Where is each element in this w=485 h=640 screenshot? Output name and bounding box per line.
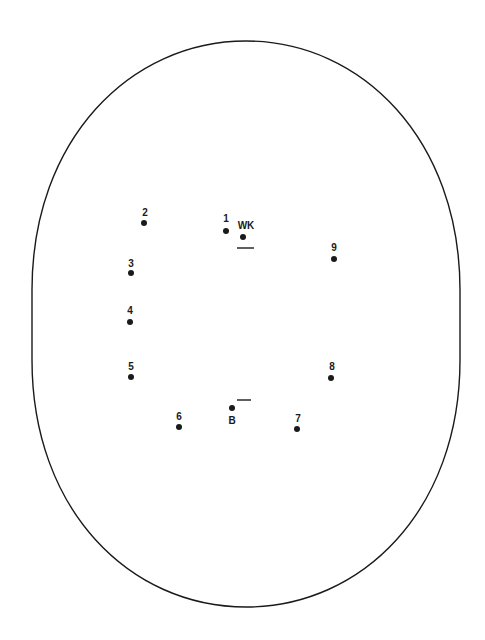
- fielding-positions: 1WK23456B789: [127, 207, 337, 432]
- fielder-wk: WK: [238, 220, 255, 240]
- position-label: 3: [128, 258, 134, 269]
- field-boundary: [32, 41, 460, 607]
- position-dot: [127, 319, 133, 325]
- cricket-field-diagram: 1WK23456B789: [0, 0, 485, 640]
- position-dot: [328, 375, 334, 381]
- fielder-3: 3: [128, 258, 134, 276]
- position-dot: [294, 426, 300, 432]
- position-label: WK: [238, 220, 255, 231]
- position-dot: [223, 228, 229, 234]
- position-label: 9: [331, 242, 337, 253]
- position-label: 4: [127, 305, 133, 316]
- position-label: B: [228, 415, 235, 426]
- fielder-4: 4: [127, 305, 133, 325]
- position-label: 7: [295, 413, 301, 424]
- position-dot: [240, 234, 246, 240]
- fielder-9: 9: [331, 242, 337, 262]
- pitch-creases: [237, 248, 254, 400]
- fielder-8: 8: [328, 361, 335, 381]
- fielder-7: 7: [294, 413, 301, 432]
- position-dot: [331, 256, 337, 262]
- position-dot: [128, 374, 134, 380]
- position-dot: [141, 220, 147, 226]
- position-dot: [176, 424, 182, 430]
- fielder-2: 2: [141, 207, 148, 226]
- fielder-5: 5: [128, 361, 134, 380]
- position-dot: [128, 270, 134, 276]
- fielder-1: 1: [223, 213, 229, 234]
- position-label: 2: [142, 207, 148, 218]
- fielder-b: B: [228, 405, 235, 426]
- fielder-6: 6: [176, 411, 182, 430]
- position-dot: [229, 405, 235, 411]
- position-label: 1: [223, 213, 229, 224]
- position-label: 8: [329, 361, 335, 372]
- position-label: 5: [128, 361, 134, 372]
- position-label: 6: [176, 411, 182, 422]
